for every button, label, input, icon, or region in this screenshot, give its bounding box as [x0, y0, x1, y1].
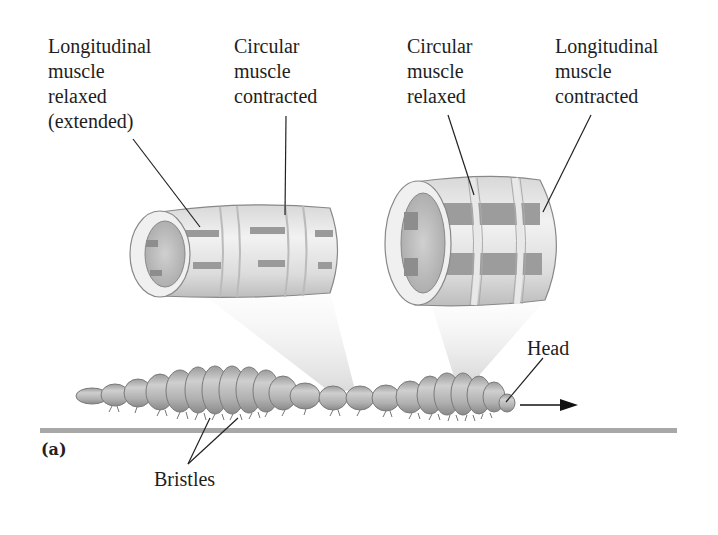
label-right-tube-longitudinal: Longitudinal muscle contracted — [555, 34, 658, 109]
leader-bristle-1 — [188, 418, 210, 464]
leader-left-circular — [285, 116, 286, 215]
leader-head — [506, 358, 543, 402]
ground-line — [40, 428, 677, 433]
label-head: Head — [527, 336, 569, 361]
direction-arrow — [520, 399, 578, 411]
label-left-tube-longitudinal: Longitudinal muscle relaxed (extended) — [48, 34, 151, 134]
panel-label: (a) — [41, 440, 67, 459]
label-bristles: Bristles — [154, 467, 215, 492]
leader-right-longitudinal — [543, 115, 591, 212]
right-muscle-tube — [385, 176, 556, 305]
leader-bristle-2 — [188, 418, 238, 464]
earthworm — [76, 366, 515, 421]
worm-segments — [76, 366, 515, 415]
left-muscle-tube — [130, 205, 338, 298]
label-right-tube-circular: Circular muscle relaxed — [407, 34, 473, 109]
label-left-tube-circular: Circular muscle contracted — [234, 34, 317, 109]
